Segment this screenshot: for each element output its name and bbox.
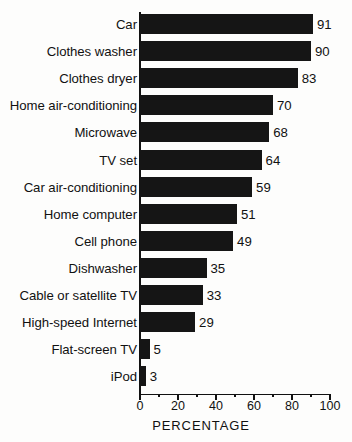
bar-category-label: Microwave — [74, 125, 137, 140]
bar-value-label: 64 — [266, 152, 281, 167]
bar-value-label: 68 — [273, 125, 288, 140]
x-axis-tick-label: 60 — [247, 399, 261, 413]
x-axis-title-text: PERCENTAGE — [152, 418, 250, 433]
bar-row: Flat-screen TV5 — [0, 339, 352, 359]
bar-chart: 020406080100 Car91Clothes washer90Clothe… — [0, 0, 352, 442]
bar — [140, 339, 150, 359]
bar — [140, 122, 269, 142]
bar-category-label: High-speed Internet — [22, 315, 137, 330]
bar-row: Home air-conditioning70 — [0, 95, 352, 115]
bar-value-label: 5 — [154, 342, 161, 357]
bar-value-label: 70 — [277, 98, 292, 113]
x-axis-tick-label: 40 — [209, 399, 223, 413]
bar-row: Dishwasher35 — [0, 258, 352, 278]
plot-area: 020406080100 Car91Clothes washer90Clothe… — [0, 0, 352, 442]
bar — [140, 231, 233, 251]
x-axis-tick-label: 20 — [171, 399, 185, 413]
bar-value-label: 51 — [241, 206, 256, 221]
bar-row: Car air-conditioning59 — [0, 177, 352, 197]
bar-value-label: 91 — [317, 17, 332, 32]
bar — [140, 95, 273, 115]
bar-value-label: 49 — [237, 233, 252, 248]
x-axis-tick-label: 100 — [319, 399, 340, 413]
x-axis-minor-tick — [310, 394, 311, 398]
bar-row: Microwave68 — [0, 122, 352, 142]
bar-category-label: Flat-screen TV — [51, 342, 137, 357]
bar-row: iPod3 — [0, 366, 352, 386]
bar-value-label: 35 — [211, 260, 226, 275]
bar-category-label: Cable or satellite TV — [20, 288, 137, 303]
bar-value-label: 3 — [150, 369, 157, 384]
bar-row: Clothes dryer83 — [0, 68, 352, 88]
x-axis-minor-tick — [234, 394, 235, 398]
bar-value-label: 83 — [302, 71, 317, 86]
bar-row: TV set64 — [0, 150, 352, 170]
bar — [140, 204, 237, 224]
bar-row: Cell phone49 — [0, 231, 352, 251]
bar-value-label: 59 — [256, 179, 271, 194]
x-axis-title: PERCENTAGE — [0, 418, 352, 433]
bar — [140, 41, 311, 61]
bar-row: Car91 — [0, 14, 352, 34]
bar-row: Clothes washer90 — [0, 41, 352, 61]
bar-category-label: Car — [116, 17, 137, 32]
bar — [140, 68, 298, 88]
bar-category-label: Cell phone — [74, 233, 137, 248]
x-axis-minor-tick — [272, 394, 273, 398]
bar-row: Home computer51 — [0, 204, 352, 224]
bar-value-label: 33 — [207, 288, 222, 303]
bar-category-label: Clothes washer — [47, 44, 137, 59]
bar-category-label: Home computer — [44, 206, 137, 221]
x-axis-tick-label: 80 — [285, 399, 299, 413]
bar-category-label: Car air-conditioning — [24, 179, 137, 194]
x-axis-tick-label: 0 — [136, 399, 143, 413]
bar-row: Cable or satellite TV33 — [0, 285, 352, 305]
bar — [140, 14, 313, 34]
bar — [140, 177, 252, 197]
bar — [140, 312, 195, 332]
bar-category-label: Home air-conditioning — [10, 98, 137, 113]
bar-value-label: 90 — [315, 44, 330, 59]
x-axis-minor-tick — [196, 394, 197, 398]
bar — [140, 285, 203, 305]
bar-row: High-speed Internet29 — [0, 312, 352, 332]
bar — [140, 150, 262, 170]
bar-value-label: 29 — [199, 315, 214, 330]
bar-category-label: TV set — [99, 152, 137, 167]
bar-category-label: Clothes dryer — [59, 71, 137, 86]
bar — [140, 258, 207, 278]
bar-category-label: iPod — [111, 369, 137, 384]
bar-category-label: Dishwasher — [69, 260, 137, 275]
x-axis-minor-tick — [158, 394, 159, 398]
bar — [140, 366, 146, 386]
